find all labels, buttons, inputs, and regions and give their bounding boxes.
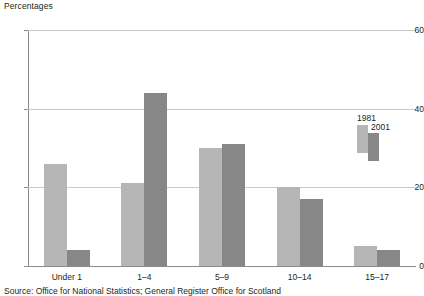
bar-2001-5-9 [222, 144, 245, 266]
source-note: Source: Office for National Statistics; … [4, 286, 281, 296]
bar-1981-5-9 [199, 148, 222, 266]
x-tick-label-4: 15–17 [337, 272, 417, 282]
bar-1981-1-4 [121, 183, 144, 266]
bar-2001-1-4 [144, 93, 167, 266]
bar-1981-10-14 [277, 187, 300, 266]
x-tick-label-2: 5–9 [182, 272, 262, 282]
legend-swatch-2001 [368, 133, 379, 161]
bar-1981-15-17 [354, 246, 377, 266]
y-tick-mark-40 [24, 109, 28, 110]
bar-chart: Percentages 0204060 Under 11–45–910–1415… [0, 0, 424, 296]
bar-2001-Under-1 [67, 250, 90, 266]
y-tick-mark-20 [24, 187, 28, 188]
gridline-60 [28, 30, 416, 31]
x-tick-label-0: Under 1 [27, 272, 107, 282]
legend-label-2001: 2001 [371, 122, 390, 132]
y-tick-mark-0 [24, 266, 28, 267]
y-tick-label-20: 20 [402, 183, 424, 191]
bar-2001-10-14 [300, 199, 323, 266]
gridline-0 [28, 266, 416, 267]
gridline-40 [28, 109, 416, 110]
legend-swatch-1981 [357, 125, 368, 153]
y-tick-label-60: 60 [402, 26, 424, 34]
y-tick-mark-60 [24, 30, 28, 31]
x-tick-label-1: 1–4 [104, 272, 184, 282]
y-tick-label-40: 40 [402, 105, 424, 113]
y-tick-label-0: 0 [402, 262, 424, 270]
bar-2001-15-17 [377, 250, 400, 266]
bar-1981-Under-1 [44, 164, 67, 266]
x-tick-label-3: 10–14 [260, 272, 340, 282]
y-axis-title: Percentages [4, 1, 53, 11]
